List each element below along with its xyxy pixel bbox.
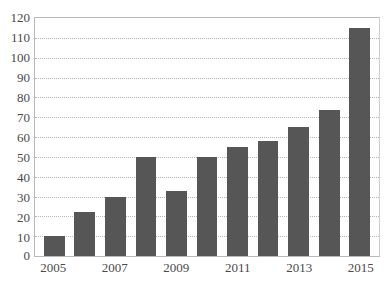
y-axis-tick-label: 100 bbox=[0, 50, 30, 63]
x-axis-tick-blank bbox=[315, 258, 346, 280]
y-axis-tick-label: 90 bbox=[0, 71, 30, 84]
bar-slot bbox=[222, 18, 253, 256]
bar-slot bbox=[39, 18, 70, 256]
bar-2007[interactable] bbox=[105, 197, 126, 257]
x-axis-tick-label-2007: 2007 bbox=[99, 258, 130, 280]
x-axis-tick-label-2005: 2005 bbox=[38, 258, 69, 280]
x-axis-tick-blank bbox=[192, 258, 223, 280]
bar-slot bbox=[131, 18, 162, 256]
y-axis: 120110100908070605040302010 bbox=[0, 17, 30, 257]
x-axis-tick-blank bbox=[130, 258, 161, 280]
y-axis-tick-label: 120 bbox=[0, 11, 30, 24]
bar-2008[interactable] bbox=[136, 157, 157, 256]
bar-2005[interactable] bbox=[44, 236, 65, 256]
x-axis-tick-label-2015: 2015 bbox=[345, 258, 376, 280]
x-axis-tick-blank bbox=[69, 258, 100, 280]
x-axis-tick-blank bbox=[253, 258, 284, 280]
y-axis-tick-label: 80 bbox=[0, 90, 30, 103]
bar-slot bbox=[70, 18, 101, 256]
x-axis-tick-label-2009: 2009 bbox=[161, 258, 192, 280]
bar-2013[interactable] bbox=[288, 127, 309, 256]
bar-slot bbox=[344, 18, 375, 256]
plot-area bbox=[34, 17, 380, 257]
y-axis-tick-label: 20 bbox=[0, 211, 30, 224]
bar-2010[interactable] bbox=[197, 157, 218, 256]
bar-2015[interactable] bbox=[349, 28, 370, 256]
y-axis-tick-label: 40 bbox=[0, 170, 30, 183]
y-axis-tick-label: 110 bbox=[0, 30, 30, 43]
bar-slot bbox=[100, 18, 131, 256]
bar-2014[interactable] bbox=[319, 110, 340, 256]
x-axis-tick-label-2013: 2013 bbox=[284, 258, 315, 280]
bar-slot bbox=[161, 18, 192, 256]
y-axis-tick-label: 10 bbox=[0, 231, 30, 244]
y-axis-tick-label: 50 bbox=[0, 151, 30, 164]
x-axis-tick-label-2011: 2011 bbox=[222, 258, 253, 280]
bars-layer bbox=[35, 18, 379, 256]
bar-2009[interactable] bbox=[166, 191, 187, 256]
bar-2006[interactable] bbox=[74, 212, 95, 256]
y-axis-origin-label: 0 bbox=[0, 248, 30, 264]
y-axis-tick-label: 30 bbox=[0, 191, 30, 204]
bar-2012[interactable] bbox=[258, 141, 279, 256]
clipped-title-text bbox=[8, 0, 308, 4]
y-axis-tick-label: 60 bbox=[0, 131, 30, 144]
x-axis: 200520072009201120132015 bbox=[34, 258, 380, 280]
bar-chart: 120110100908070605040302010 0 2005200720… bbox=[0, 0, 389, 285]
bar-slot bbox=[192, 18, 223, 256]
bar-2011[interactable] bbox=[227, 147, 248, 256]
y-axis-tick-label: 70 bbox=[0, 111, 30, 124]
bar-slot bbox=[314, 18, 345, 256]
bar-slot bbox=[283, 18, 314, 256]
bar-slot bbox=[253, 18, 284, 256]
